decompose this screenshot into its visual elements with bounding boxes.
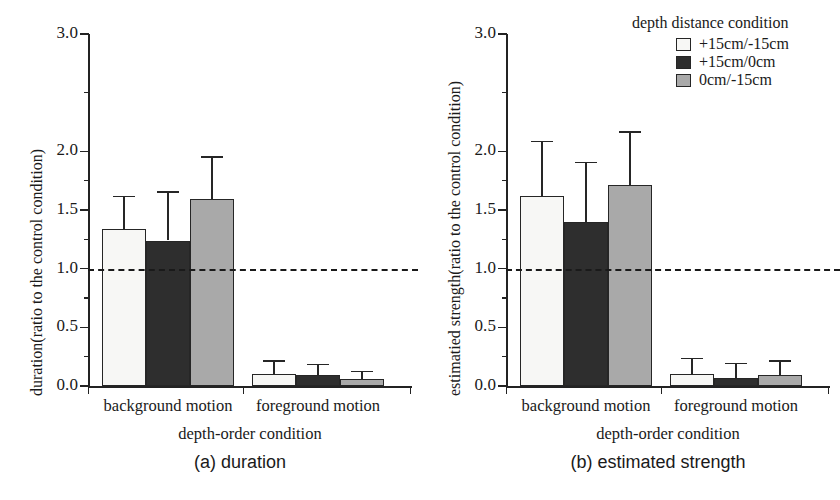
error-bar-cap <box>113 196 135 198</box>
y-tick-label: 3.0 <box>36 23 78 43</box>
reference-line <box>506 269 840 271</box>
bar <box>340 379 384 386</box>
y-tick-major <box>80 151 89 152</box>
legend-item: +15cm/-15cm <box>630 35 835 53</box>
y-tick-major <box>498 327 507 328</box>
y-tick-minor <box>84 239 89 240</box>
error-bar-cap <box>681 358 703 360</box>
x-tick <box>243 387 244 394</box>
x-tick <box>506 387 507 394</box>
legend-swatch-plus15-minus15 <box>676 38 691 51</box>
x-tick <box>828 387 829 394</box>
y-tick-major <box>498 151 507 152</box>
bar <box>520 196 564 386</box>
bar <box>102 229 146 386</box>
x-axis-title-duration: depth-order condition <box>88 424 412 444</box>
error-bar-cap <box>157 191 179 193</box>
error-bar-stem <box>629 131 631 185</box>
bar <box>758 375 802 386</box>
legend-swatch-plus15-0 <box>676 56 691 69</box>
x-axis-line <box>506 386 830 388</box>
x-category-label: foreground motion <box>228 396 408 416</box>
bar <box>252 374 296 386</box>
error-bar-stem <box>211 156 213 199</box>
error-bar-stem <box>691 358 693 374</box>
error-bar-stem <box>317 364 319 376</box>
x-tick <box>410 387 411 394</box>
y-tick-minor <box>84 297 89 298</box>
panel-caption-duration: (a) duration <box>68 452 412 473</box>
error-bar-cap <box>201 156 223 158</box>
x-tick <box>661 387 662 394</box>
bar <box>564 222 608 386</box>
bar <box>714 378 758 386</box>
error-bar-stem <box>735 363 737 378</box>
y-tick-minor <box>502 92 507 93</box>
y-tick-label: 3.0 <box>454 23 496 43</box>
y-tick-minor <box>502 356 507 357</box>
error-bar-cap <box>619 131 641 133</box>
legend-item: 0cm/-15cm <box>630 71 835 89</box>
error-bar-stem <box>779 360 781 375</box>
bar <box>146 241 190 386</box>
y-tick-minor <box>502 239 507 240</box>
legend-swatch-0-minus15 <box>676 74 691 87</box>
y-tick-minor <box>84 356 89 357</box>
bar <box>190 199 234 386</box>
error-bar-stem <box>167 191 169 240</box>
y-axis-title-duration: duration(ratio to the control condition) <box>28 149 46 396</box>
y-axis-title-estimated-strength: estimatied strength(ratio to the control… <box>446 81 464 396</box>
error-bar-cap <box>307 364 329 366</box>
bar <box>608 185 652 386</box>
error-bar-cap <box>725 363 747 365</box>
error-bar-stem <box>541 141 543 196</box>
error-bar-stem <box>273 360 275 374</box>
legend-item: +15cm/0cm <box>630 53 835 71</box>
y-tick-minor <box>84 92 89 93</box>
bar <box>670 374 714 386</box>
error-bar-stem <box>585 162 587 222</box>
panel-duration: 0.00.51.01.52.03.0background motionforeg… <box>0 0 417 500</box>
y-tick-minor <box>502 297 507 298</box>
y-tick-major <box>498 33 507 34</box>
x-axis-title-estimated-strength: depth-order condition <box>506 424 830 444</box>
legend-title: depth distance condition <box>630 14 835 32</box>
y-tick-major <box>80 209 89 210</box>
y-tick-major <box>80 327 89 328</box>
legend-label: +15cm/0cm <box>699 54 776 70</box>
error-bar-cap <box>575 162 597 164</box>
error-bar-cap <box>769 360 791 362</box>
y-tick-minor <box>84 180 89 181</box>
y-tick-minor <box>502 180 507 181</box>
bar <box>296 375 340 386</box>
panel-caption-estimated-strength: (b) estimated strength <box>486 452 830 473</box>
error-bar-cap <box>531 141 553 143</box>
error-bar-stem <box>123 196 125 229</box>
reference-line <box>88 269 418 271</box>
x-tick <box>88 387 89 394</box>
x-category-label: foreground motion <box>646 396 826 416</box>
legend: depth distance condition +15cm/-15cm +15… <box>630 14 835 89</box>
error-bar-cap <box>263 360 285 362</box>
error-bar-cap <box>351 371 373 373</box>
x-axis-line <box>88 386 412 388</box>
legend-label: +15cm/-15cm <box>699 36 789 52</box>
legend-label: 0cm/-15cm <box>699 72 772 88</box>
y-tick-major <box>80 33 89 34</box>
y-tick-major <box>498 209 507 210</box>
